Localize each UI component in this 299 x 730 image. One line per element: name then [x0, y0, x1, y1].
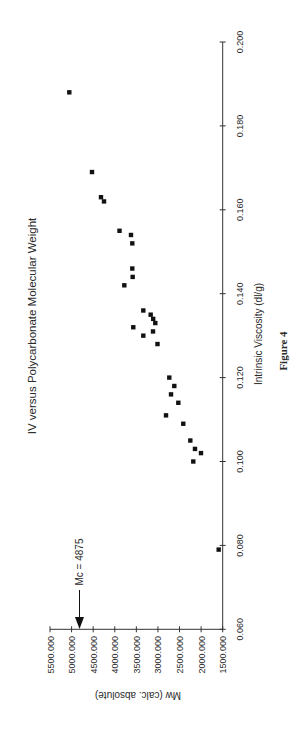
data-point-marker [99, 195, 103, 199]
y-tick-label: 5500.000 [46, 636, 56, 674]
x-tick-label: 0.080 [235, 534, 245, 557]
mc-arrow-head-icon [75, 617, 84, 629]
data-point-marker [90, 170, 94, 174]
data-point-marker [191, 459, 195, 463]
data-point-marker [141, 308, 145, 312]
x-tick-label: 0.140 [235, 282, 245, 305]
data-point-marker [181, 422, 185, 426]
x-tick-label: 0.200 [235, 31, 245, 54]
data-point-marker [67, 90, 71, 94]
data-point-marker [122, 283, 126, 287]
y-tick-label: 3500.000 [132, 636, 142, 674]
data-points [67, 90, 221, 552]
data-point-marker [193, 447, 197, 451]
data-point-marker [102, 199, 106, 203]
data-point-marker [169, 392, 173, 396]
data-point-marker [141, 333, 145, 337]
data-point-marker [164, 413, 168, 417]
x-tick-label: 0.060 [235, 618, 245, 641]
mc-label: Mc = 4875 [74, 538, 85, 585]
data-point-marker [130, 275, 134, 279]
y-tick-label: 2000.000 [197, 636, 207, 674]
data-point-marker [151, 317, 155, 321]
data-point-marker [129, 233, 133, 237]
y-tick-label: 4000.000 [110, 636, 120, 674]
data-point-marker [131, 325, 135, 329]
x-axis-label: Intrinsic Viscosity (dl/g) [253, 283, 264, 385]
y-tick-label: 4500.000 [89, 636, 99, 674]
y-axis-label: Mw (calc. absolute) [95, 690, 181, 701]
data-point-marker [130, 241, 134, 245]
mc-annotation: Mc = 4875 [74, 538, 85, 629]
data-point-marker [176, 401, 180, 405]
data-point-marker [199, 451, 203, 455]
y-tick-label: 5000.000 [67, 636, 77, 674]
data-point-marker [172, 384, 176, 388]
data-point-marker [130, 266, 134, 270]
chart-title: IV versus Polycarbonate Molecular Weight [26, 217, 38, 434]
data-point-marker [188, 438, 192, 442]
data-point-marker [167, 375, 171, 379]
y-tick-label: 2500.000 [175, 636, 185, 674]
x-tick-label: 0.120 [235, 366, 245, 389]
data-point-marker [151, 329, 155, 333]
figure-caption: Figure 4 [277, 331, 289, 371]
y-tick-label: 1500.000 [218, 636, 228, 674]
data-point-marker [148, 312, 152, 316]
chart-canvas: IV versus Polycarbonate Molecular Weight… [0, 0, 299, 730]
x-tick-label: 0.180 [235, 115, 245, 138]
data-point-marker [153, 321, 157, 325]
y-tick-label: 3000.000 [153, 636, 163, 674]
x-tick-label: 0.160 [235, 199, 245, 222]
data-point-marker [155, 342, 159, 346]
x-tick-label: 0.100 [235, 450, 245, 473]
data-point-marker [216, 547, 220, 551]
data-point-marker [117, 229, 121, 233]
scatter-chart: IV versus Polycarbonate Molecular Weight… [0, 0, 299, 730]
